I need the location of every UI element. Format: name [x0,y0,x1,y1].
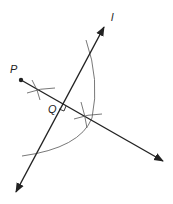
compass-arc-large [22,40,95,156]
label-l: l [111,11,114,23]
label-p: P [10,63,18,75]
arc-mark-1b [27,88,55,93]
label-q: Q [48,103,57,115]
perpendicular-line [21,80,163,161]
point-p [19,78,23,82]
construction-diagram: P Q l [0,0,173,204]
